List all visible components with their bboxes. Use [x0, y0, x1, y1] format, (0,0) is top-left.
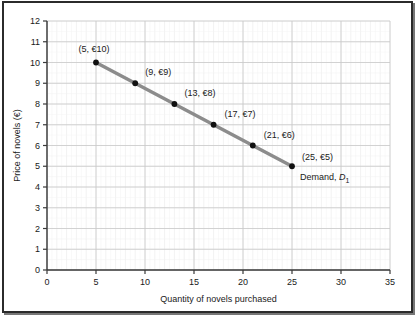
y-tick-label: 1	[35, 244, 40, 254]
data-point-marker	[289, 163, 295, 169]
data-point-marker	[250, 143, 256, 149]
x-axis-title: Quantity of novels purchased	[160, 294, 277, 304]
figure-container: 0123456789101112 05101520253035 Price of…	[0, 0, 418, 318]
data-point-labels: (5, €10)(9, €9)(13, €8)(17, €7)(21, €6)(…	[78, 44, 333, 163]
axis-tick-marks	[43, 21, 390, 274]
y-tick-label: 12	[30, 16, 40, 26]
data-point-marker	[93, 60, 99, 66]
y-tick-label: 6	[35, 141, 40, 151]
x-tick-label: 10	[140, 277, 150, 287]
series-label-demand: Demand, D1	[300, 172, 350, 184]
data-point-marker	[211, 122, 217, 128]
data-point-marker	[132, 80, 138, 86]
y-tick-label: 8	[35, 99, 40, 109]
y-tick-label: 11	[31, 37, 40, 47]
y-tick-label: 9	[35, 78, 40, 88]
y-tick-label: 4	[35, 182, 40, 192]
x-tick-label: 0	[44, 277, 49, 287]
y-tick-label: 2	[35, 224, 40, 234]
data-point-label: (9, €9)	[145, 67, 171, 77]
y-tick-label: 3	[35, 203, 40, 213]
x-tick-label: 30	[336, 277, 346, 287]
y-tick-label: 5	[35, 161, 40, 171]
data-point-label: (13, €8)	[184, 88, 215, 98]
data-point-label: (25, €5)	[302, 152, 333, 162]
x-axis-tick-labels: 05101520253035	[44, 277, 395, 287]
x-tick-label: 35	[385, 277, 395, 287]
x-tick-label: 25	[287, 277, 297, 287]
plot-area-wrapper: 0123456789101112 05101520253035 Price of…	[0, 0, 418, 318]
x-tick-label: 5	[93, 277, 98, 287]
demand-curve-chart: 0123456789101112 05101520253035 Price of…	[0, 0, 418, 318]
data-point-marker	[172, 101, 178, 107]
x-tick-label: 15	[189, 277, 199, 287]
series-inline-label: Demand, D1	[300, 172, 350, 184]
data-point-label: (21, €6)	[264, 130, 295, 140]
y-axis-title: Price of novels (€)	[12, 109, 22, 182]
x-tick-label: 20	[238, 277, 248, 287]
y-tick-label: 7	[35, 120, 40, 130]
y-axis-tick-labels: 0123456789101112	[30, 16, 40, 275]
data-point-label: (5, €10)	[78, 44, 109, 54]
data-point-label: (17, €7)	[225, 109, 256, 119]
y-tick-label: 0	[35, 265, 40, 275]
y-tick-label: 10	[30, 58, 40, 68]
